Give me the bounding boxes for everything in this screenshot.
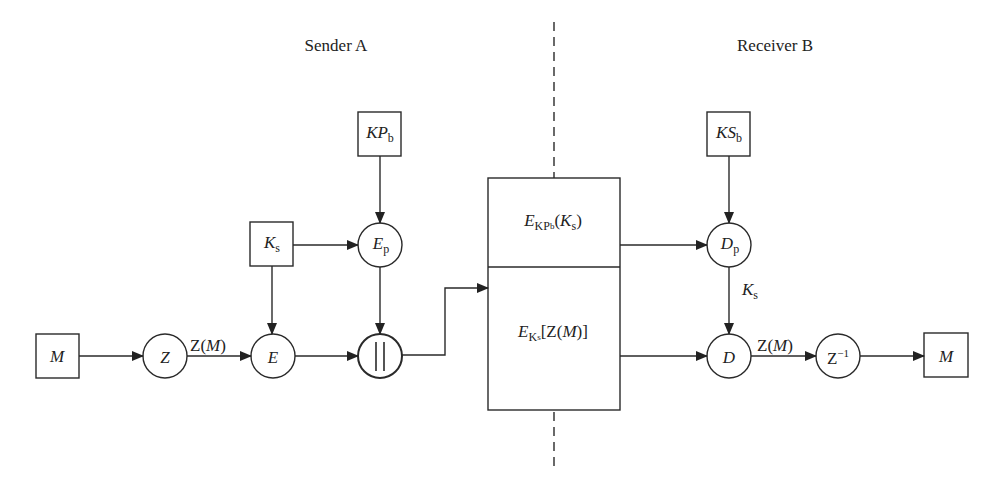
packet-bottom-label: EKs[Z(M)] [518, 323, 588, 343]
e-label: E [268, 349, 278, 366]
zm-receiver-label: Z(M) [757, 337, 793, 354]
concat-node [358, 334, 402, 378]
m-output-label: M [939, 348, 953, 365]
z-inverse-label: Z−1 [827, 348, 849, 367]
k-s-label: Ks [264, 234, 280, 254]
z-label: Z [160, 349, 169, 366]
d-p-label: Dp [721, 235, 739, 255]
ks-receiver-label: Ks [742, 281, 758, 301]
kp-b-label: KPb [366, 124, 394, 144]
ks-b-label: KSb [716, 124, 742, 144]
m-input-label: M [50, 348, 64, 365]
packet-top-label: EKPb(Ks) [524, 212, 582, 232]
receiver-header: Receiver B [737, 37, 813, 54]
diagram-canvas [0, 0, 1000, 496]
e-p-label: Ep [373, 235, 389, 255]
d-label: D [723, 349, 735, 366]
sender-header: Sender A [305, 37, 368, 54]
zm-sender-label: Z(M) [190, 337, 226, 354]
edge-concat-packet [402, 288, 488, 355]
